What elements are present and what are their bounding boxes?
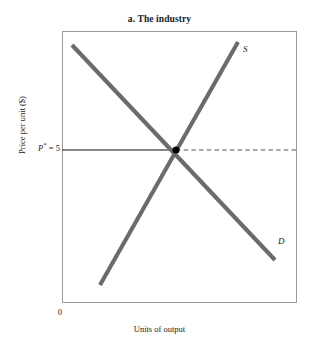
chart-canvas (0, 0, 319, 342)
y-axis-label: Price per unit ($) (17, 70, 27, 180)
supply-curve (100, 42, 238, 285)
demand-curve-label: D (278, 236, 285, 247)
equilibrium-point-marker (172, 146, 179, 153)
price-value: = 5 (47, 143, 60, 153)
supply-curve-label: S (243, 44, 248, 55)
origin-label: 0 (48, 307, 62, 318)
equilibrium-price-label: P* = 5 (8, 143, 60, 154)
x-axis-label: Units of output (0, 324, 319, 335)
supply-demand-figure: a. The industry Price per unit ($) Units… (0, 0, 319, 342)
